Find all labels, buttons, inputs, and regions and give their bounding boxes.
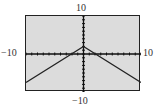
x-min-label: −10 — [1, 48, 17, 58]
calculator-graph-screen — [25, 15, 140, 91]
x-max-label: 10 — [143, 48, 153, 58]
y-max-label: 10 — [76, 3, 86, 13]
plot-area — [26, 16, 141, 92]
y-min-label: −10 — [72, 96, 88, 106]
